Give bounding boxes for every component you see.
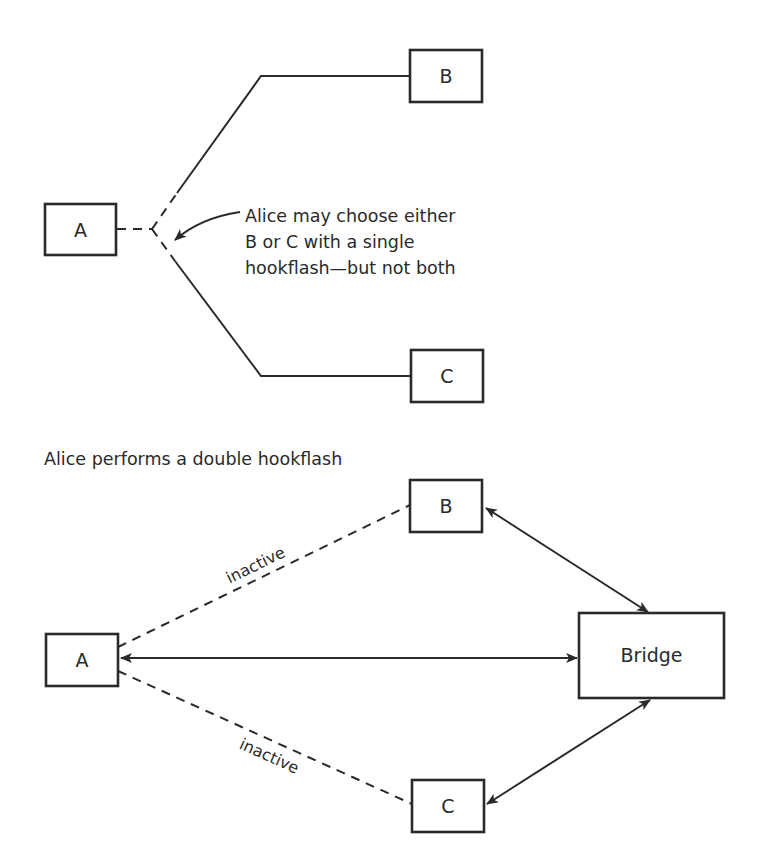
path-to-c bbox=[175, 261, 411, 376]
node-b-label: B bbox=[439, 495, 452, 517]
edge-b-bridge-arrow bbox=[486, 508, 648, 612]
node-a-label: A bbox=[74, 219, 87, 241]
node-a-label: A bbox=[76, 649, 89, 671]
node-bridge-label: Bridge bbox=[621, 644, 683, 666]
node-c-label: C bbox=[441, 795, 454, 817]
annotation-line-1: Alice may choose either bbox=[245, 206, 456, 226]
edge-c-bridge-arrow bbox=[487, 700, 650, 804]
node-a-top: A bbox=[45, 204, 116, 255]
top-diagram: A B C Alice may choose either B or C wit… bbox=[45, 50, 483, 402]
annotation-text: Alice may choose either B or C with a si… bbox=[245, 206, 456, 278]
bottom-diagram: Alice performs a double hookflash inacti… bbox=[44, 449, 724, 832]
node-c-bottom: C bbox=[412, 780, 484, 832]
junction-to-b-dashed bbox=[152, 193, 177, 229]
node-b-label: B bbox=[439, 65, 452, 87]
node-a-bottom: A bbox=[46, 634, 118, 686]
node-c-label: C bbox=[440, 365, 453, 387]
edge-a-b-inactive bbox=[118, 505, 410, 647]
annotation-line-3: hookflash—but not both bbox=[245, 258, 456, 278]
node-b-bottom: B bbox=[410, 480, 482, 532]
junction-to-c-dashed bbox=[152, 229, 175, 261]
node-bridge: Bridge bbox=[579, 613, 724, 698]
diagram-canvas: A B C Alice may choose either B or C wit… bbox=[0, 0, 771, 868]
node-c-top: C bbox=[411, 350, 483, 402]
bottom-diagram-title: Alice performs a double hookflash bbox=[44, 449, 342, 469]
node-b-top: B bbox=[410, 50, 482, 102]
edge-a-c-label: inactive bbox=[237, 734, 302, 777]
annotation-arrow-icon bbox=[175, 212, 240, 240]
path-to-b bbox=[177, 76, 410, 193]
annotation-line-2: B or C with a single bbox=[245, 232, 415, 252]
edge-a-c-inactive bbox=[118, 671, 412, 804]
